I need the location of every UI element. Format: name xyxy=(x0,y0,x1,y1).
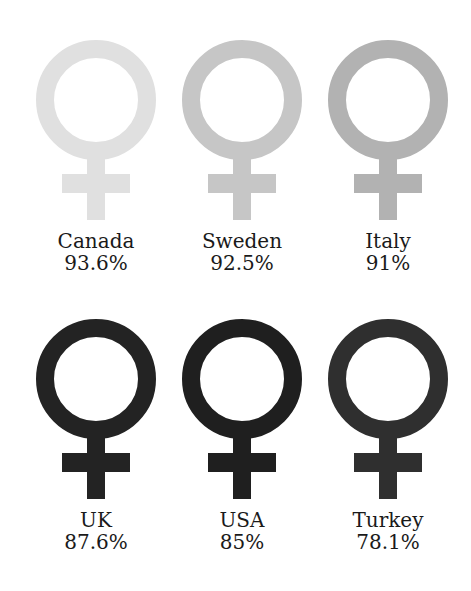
female-symbol-icon xyxy=(21,38,171,228)
country-label: Turkey xyxy=(313,509,463,531)
percentage-label: 93.6% xyxy=(21,252,171,274)
percentage-label: 85% xyxy=(167,531,317,553)
country-label: UK xyxy=(21,509,171,531)
female-symbol-icon xyxy=(313,317,463,507)
percentage-label: 78.1% xyxy=(313,531,463,553)
percentage-label: 91% xyxy=(313,252,463,274)
female-symbol-icon xyxy=(167,317,317,507)
country-label: Italy xyxy=(313,230,463,252)
percentage-label: 87.6% xyxy=(21,531,171,553)
country-label: USA xyxy=(167,509,317,531)
country-label: Canada xyxy=(21,230,171,252)
female-symbol-icon xyxy=(313,38,463,228)
percentage-label: 92.5% xyxy=(167,252,317,274)
country-label: Sweden xyxy=(167,230,317,252)
female-symbol-icon xyxy=(167,38,317,228)
female-symbol-icon xyxy=(21,317,171,507)
